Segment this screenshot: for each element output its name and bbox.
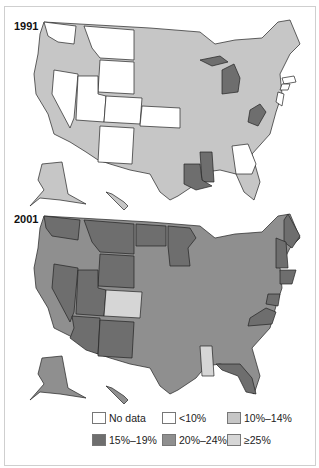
legend-item-20-24: 20%–24% [162, 434, 227, 446]
us-map-2001 [0, 208, 319, 408]
state-alaska [30, 356, 86, 400]
map-2001 [0, 208, 319, 408]
legend-item-lt10: <10% [162, 412, 206, 424]
legend-item-10-14: 10%–14% [227, 412, 292, 424]
legend-item-ge25: ≥25% [227, 434, 271, 446]
state-mississippi [200, 152, 214, 182]
state-massachusetts [282, 76, 296, 84]
legend-label: ≥25% [244, 434, 271, 446]
legend-swatch-20-24 [162, 434, 176, 446]
state-new-mexico [98, 320, 134, 358]
legend-swatch-lt10 [162, 412, 176, 424]
state-arizona [70, 316, 100, 354]
legend-label: No data [109, 412, 146, 424]
legend-swatch-no-data [92, 412, 106, 424]
state-wyoming [98, 60, 134, 94]
state-new-mexico [98, 126, 134, 164]
legend-item-no-data: No data [92, 412, 146, 424]
legend-label: 10%–14% [244, 412, 292, 424]
state-colorado [104, 96, 142, 124]
state-new-hampshire-vermont [276, 238, 288, 268]
map-1991 [0, 14, 319, 214]
state-alaska [30, 162, 86, 206]
state-mississippi [200, 346, 214, 376]
legend-swatch-15-19 [92, 434, 106, 446]
state-delaware-maryland [266, 294, 280, 306]
state-massachusetts-ct-ri [280, 270, 296, 284]
us-map-1991 [0, 14, 319, 214]
legend-item-15-19: 15%–19% [92, 434, 157, 446]
legend-swatch-10-14 [227, 412, 241, 424]
legend-swatch-ge25 [227, 434, 241, 446]
state-hawaii [106, 386, 128, 404]
legend-label: 15%–19% [109, 434, 157, 446]
state-north-dakota [136, 224, 166, 246]
state-wyoming [98, 254, 134, 288]
state-colorado [104, 290, 142, 318]
legend-label: <10% [179, 412, 206, 424]
legend: No data <10% 10%–14% 15%–19% 20%–24% ≥25… [92, 412, 312, 456]
state-kansas [140, 106, 180, 128]
state-connecticut [280, 84, 290, 90]
legend-label: 20%–24% [179, 434, 227, 446]
